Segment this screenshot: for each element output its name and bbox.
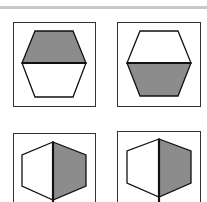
hexagon-right-shaded-icon <box>0 0 207 202</box>
panel-bottom-right <box>0 0 207 202</box>
